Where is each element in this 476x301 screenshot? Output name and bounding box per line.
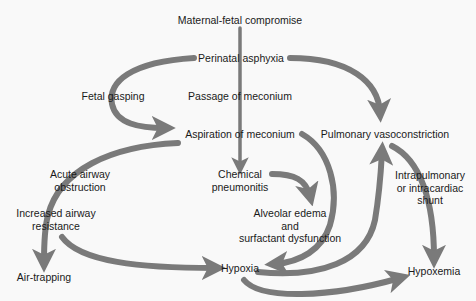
label-shunt: Intrapulmonary or intracardiac shunt — [395, 169, 465, 207]
label-acute-airway-obstruction: Acute airway obstruction — [50, 168, 110, 193]
label-line: pneumonitis — [212, 181, 269, 194]
label-line: resistance — [16, 220, 95, 233]
node-aspiration-of-meconium: Aspiration of meconium — [185, 128, 295, 141]
label-line: or intracardiac — [395, 182, 465, 195]
node-chemical-pneumonitis: Chemical pneumonitis — [212, 168, 269, 193]
label-line: and — [239, 220, 341, 233]
label-line: surfactant dysfunction — [239, 232, 341, 245]
node-hypoxia: Hypoxia — [221, 262, 259, 275]
label-line: obstruction — [50, 181, 110, 194]
arrow-asphyxia-to-vasoconstriction — [290, 58, 380, 112]
label-line: Alveolar edema — [239, 207, 341, 220]
label-line: Chemical — [212, 168, 269, 181]
node-hypoxemia: Hypoxemia — [408, 265, 461, 278]
label-fetal-gasping: Fetal gasping — [81, 90, 144, 103]
node-increased-airway-resistance: Increased airway resistance — [16, 207, 95, 232]
label-passage-of-meconium: Passage of meconium — [188, 90, 292, 103]
label-line: Acute airway — [50, 168, 110, 181]
arrow-aspiration-to-airtrapping — [44, 143, 178, 262]
label-line: Intrapulmonary — [395, 169, 465, 182]
label-line: shunt — [395, 194, 465, 207]
arrow-aspiration-to-hypoxia — [275, 134, 334, 264]
arrow-chemical-to-alveolar — [272, 174, 310, 196]
node-air-trapping: Air-trapping — [17, 271, 71, 284]
arrow-resistance-to-hypoxia — [62, 237, 215, 268]
node-maternal-fetal-compromise: Maternal-fetal compromise — [178, 14, 302, 27]
arrow-hypoxia-to-hypoxemia — [244, 278, 400, 294]
label-line: Increased airway — [16, 207, 95, 220]
flow-arrows — [0, 0, 476, 301]
node-pulmonary-vasoconstriction: Pulmonary vasoconstriction — [321, 128, 449, 141]
node-alveolar-edema: Alveolar edema and surfactant dysfunctio… — [239, 207, 341, 245]
node-perinatal-asphyxia: Perinatal asphyxia — [198, 52, 284, 65]
